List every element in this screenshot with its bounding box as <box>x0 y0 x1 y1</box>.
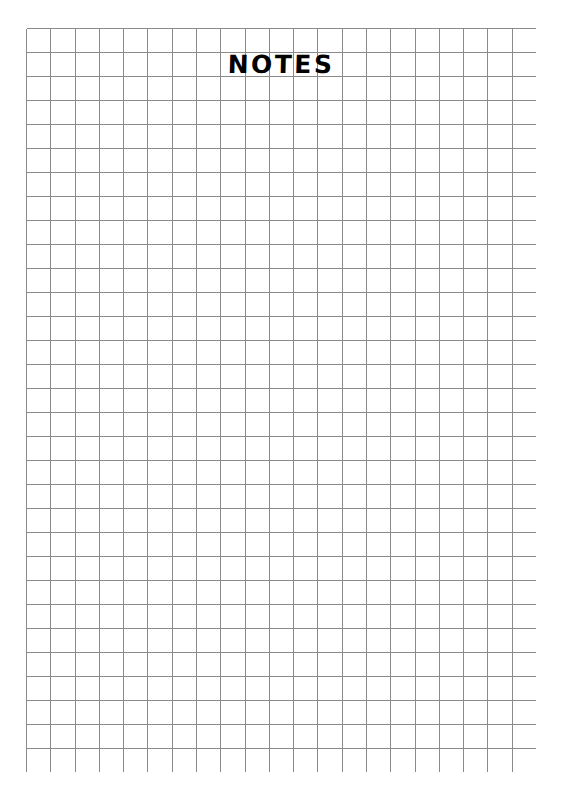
running-head <box>0 0 562 3</box>
grid-lines <box>26 28 536 772</box>
notes-page: NOTES <box>0 0 562 801</box>
notes-heading: NOTES <box>26 52 537 78</box>
graph-paper-grid: NOTES <box>26 28 536 772</box>
